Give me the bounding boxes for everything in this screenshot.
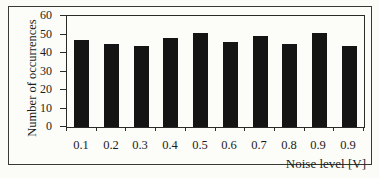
y-tick-label: 50 <box>16 27 52 41</box>
x-tick-label: 0.6 <box>214 138 244 152</box>
x-tick-mark <box>274 127 275 131</box>
bar <box>163 38 178 127</box>
bar <box>74 40 89 127</box>
y-tick-label: 40 <box>16 45 52 59</box>
plot-area <box>66 15 365 128</box>
x-tick-label: 0.1 <box>66 138 96 152</box>
bar <box>193 33 208 127</box>
x-tick-mark <box>363 127 364 131</box>
y-tick-mark <box>60 71 66 72</box>
y-tick-label: 60 <box>16 8 52 22</box>
x-tick-mark <box>304 127 305 131</box>
bar <box>134 46 149 127</box>
bar <box>253 36 268 127</box>
x-tick-mark <box>66 127 67 131</box>
x-tick-label: 0.5 <box>185 138 215 152</box>
bar <box>104 44 119 127</box>
x-tick-mark <box>125 127 126 131</box>
y-tick-mark <box>60 108 66 109</box>
x-tick-label: 0.2 <box>96 138 126 152</box>
y-tick-mark <box>60 15 66 16</box>
y-tick-label: 10 <box>16 101 52 115</box>
x-tick-label: 0.9 <box>303 138 333 152</box>
chart-figure: Number of occurrences Noise level [V] 01… <box>0 0 379 178</box>
bar <box>312 33 327 127</box>
x-tick-label: 0.8 <box>274 138 304 152</box>
x-tick-mark <box>333 127 334 131</box>
y-tick-mark <box>60 52 66 53</box>
x-tick-label: 0.3 <box>125 138 155 152</box>
x-tick-label: 0.9 <box>333 138 363 152</box>
y-tick-mark <box>60 34 66 35</box>
x-tick-mark <box>96 127 97 131</box>
x-tick-label: 0.7 <box>244 138 274 152</box>
y-tick-label: 0 <box>16 119 52 133</box>
y-tick-mark <box>60 89 66 90</box>
x-tick-mark <box>244 127 245 131</box>
bar <box>223 42 238 127</box>
bar <box>282 44 297 127</box>
x-axis-title: Noise level [V] <box>239 156 366 172</box>
bar <box>342 46 357 127</box>
y-tick-label: 20 <box>16 82 52 96</box>
y-tick-label: 30 <box>16 64 52 78</box>
x-tick-mark <box>215 127 216 131</box>
x-tick-label: 0.4 <box>155 138 185 152</box>
x-tick-mark <box>155 127 156 131</box>
x-tick-mark <box>185 127 186 131</box>
